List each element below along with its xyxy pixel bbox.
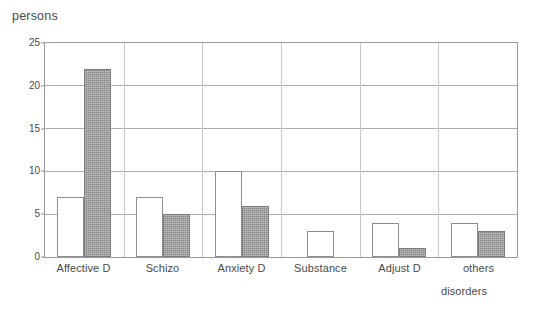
bar[interactable] xyxy=(163,214,190,257)
bar[interactable] xyxy=(84,69,111,257)
y-axis-tick-label: 5 xyxy=(34,209,40,219)
y-axis-tick-label: 15 xyxy=(29,124,40,134)
bar[interactable] xyxy=(215,171,242,257)
x-axis-category-label: Affective D xyxy=(44,262,123,274)
bar[interactable] xyxy=(136,197,163,257)
bar-group xyxy=(281,43,360,257)
x-axis-category-label: Adjust D xyxy=(360,262,439,274)
bar-group xyxy=(360,43,439,257)
bar-group-bars xyxy=(202,43,281,257)
bar-group xyxy=(124,43,203,257)
x-axis-title: disorders xyxy=(441,285,487,297)
x-axis-category-label: others xyxy=(439,262,518,274)
y-axis-title: persons xyxy=(12,9,58,23)
bar[interactable] xyxy=(57,197,84,257)
bar[interactable] xyxy=(242,206,269,257)
bar-group-bars xyxy=(45,43,124,257)
bar[interactable] xyxy=(451,223,478,257)
bar[interactable] xyxy=(307,231,334,257)
bar-group xyxy=(45,43,124,257)
x-axis-tick-labels: Affective DSchizoAnxiety DSubstanceAdjus… xyxy=(44,262,518,274)
x-axis-category-label: Substance xyxy=(281,262,360,274)
y-axis-tick-label: 25 xyxy=(29,38,40,48)
y-axis-tick-label: 10 xyxy=(29,166,40,176)
y-axis-tick-label: 20 xyxy=(29,81,40,91)
bar-group-bars xyxy=(438,43,517,257)
bar[interactable] xyxy=(478,231,505,257)
x-axis-category-label: Schizo xyxy=(123,262,202,274)
bar-groups xyxy=(45,43,517,257)
bar[interactable] xyxy=(372,223,399,257)
bar-group xyxy=(202,43,281,257)
bar[interactable] xyxy=(399,248,426,257)
y-axis-tick-label: 0 xyxy=(34,252,40,262)
bar-group xyxy=(438,43,517,257)
bar-group-bars xyxy=(360,43,439,257)
x-axis-category-label: Anxiety D xyxy=(202,262,281,274)
bar-group-bars xyxy=(281,43,360,257)
bar-group-bars xyxy=(124,43,203,257)
plot-area: 0510152025 xyxy=(44,42,518,258)
